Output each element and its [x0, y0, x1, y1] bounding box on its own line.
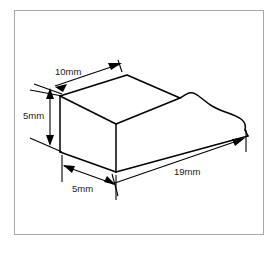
dim-10mm-terminator-tick	[118, 60, 122, 72]
dim-depth-label: 5mm	[72, 183, 93, 194]
technical-drawing-figure: 10mm 5mm 5mm 19mm	[0, 0, 278, 253]
dim-10mm-label: 10mm	[55, 66, 81, 77]
dim-depth-arrowhead-left	[63, 165, 75, 173]
dim-length-arrowhead-right	[232, 138, 245, 146]
dim-height-label: 5mm	[23, 110, 44, 121]
dim-height-extension-bottom	[30, 138, 62, 152]
dim-height-extension-top	[30, 90, 62, 96]
dim-height-arrowhead-bottom	[46, 135, 54, 146]
drawing-canvas: 10mm 5mm 5mm 19mm	[0, 0, 278, 253]
dim-length-label: 19mm	[174, 166, 200, 177]
dim-length-extension-left	[112, 174, 118, 196]
